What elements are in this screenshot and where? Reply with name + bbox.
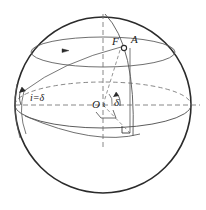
label-angle-i-equals-delta: i=δ — [30, 93, 44, 103]
label-center-O: O — [92, 99, 100, 110]
angle-polygon-below-center — [96, 110, 116, 118]
celestial-sphere-figure: F A O ι δ i=δ — [0, 0, 206, 210]
point-marker-FA — [121, 45, 126, 50]
radius-O-to-foot-dashed — [103, 105, 130, 133]
label-angle-iota: ι — [103, 101, 105, 109]
lower-parallel-arc — [25, 116, 140, 137]
tilted-great-circle-arc — [24, 47, 121, 91]
upper-parallel-direction-arrow — [62, 49, 69, 53]
tilted-great-circle-left-limb — [21, 91, 26, 134]
angle-arc-iota — [109, 94, 112, 104]
label-angle-delta: δ — [114, 97, 119, 108]
angle-arc-i-arrow — [19, 87, 26, 93]
label-F: F — [112, 36, 119, 47]
label-A: A — [131, 34, 138, 45]
